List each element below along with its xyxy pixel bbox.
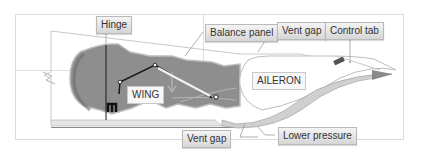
leader-balance-panel: [185, 32, 203, 56]
control-tab-hinge: [349, 61, 351, 63]
linkage-joint-1: [118, 80, 122, 84]
lower-pressure-label: Lower pressure: [278, 127, 357, 145]
linkage-joint-2: [153, 63, 157, 67]
hinge-label: Hinge: [96, 16, 132, 34]
vent-gap-bottom-label: Vent gap: [182, 130, 231, 148]
linkage-joint-3: [214, 95, 218, 99]
leader-lower-pressure: [258, 127, 275, 135]
balance-panel-label: Balance panel: [205, 24, 278, 42]
control-tab-label: Control tab: [325, 22, 384, 40]
aileron-label: AILERON: [252, 72, 306, 90]
wing-lower-surface: [51, 120, 222, 126]
vent-gap-top-label: Vent gap: [277, 22, 326, 40]
hinge-bracket: [108, 104, 116, 112]
wing-label: WING: [127, 86, 164, 104]
break-mark: [43, 72, 55, 84]
